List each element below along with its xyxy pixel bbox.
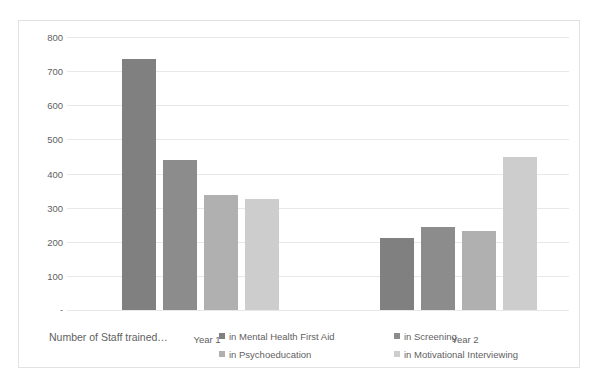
legend-swatch-icon — [394, 333, 400, 339]
bar[interactable] — [204, 195, 238, 310]
legend-item[interactable]: in Screening — [394, 327, 569, 345]
legend-swatch-icon — [219, 333, 225, 339]
x-axis-title: Number of Staff trained… — [49, 331, 168, 343]
legend-label: in Screening — [404, 331, 457, 342]
y-axis-tick-label: 500 — [17, 134, 63, 145]
legend-item[interactable]: in Motivational Interviewing — [394, 345, 569, 363]
y-axis-tick-label: 700 — [17, 66, 63, 77]
plot-area: 800700600500400300200100- Year 1Year 2 — [67, 37, 569, 310]
bar[interactable] — [380, 238, 414, 310]
bar[interactable] — [421, 227, 455, 310]
legend-label: in Mental Health First Aid — [229, 331, 335, 342]
legend-label: in Motivational Interviewing — [404, 349, 518, 360]
chart-legend: in Mental Health First Aidin Screeningin… — [219, 327, 579, 363]
bar-group — [122, 37, 279, 310]
y-axis-tick-label: 400 — [17, 168, 63, 179]
gridline — [67, 310, 569, 311]
y-axis-tick-label: 600 — [17, 100, 63, 111]
y-axis-tick-label: - — [17, 305, 63, 315]
y-axis-tick-label: 800 — [17, 32, 63, 43]
legend-item[interactable]: in Mental Health First Aid — [219, 327, 394, 345]
bar[interactable] — [245, 199, 279, 310]
y-axis-tick-label: 300 — [17, 202, 63, 213]
bar[interactable] — [462, 231, 496, 310]
bar-groups — [67, 37, 569, 310]
legend-swatch-icon — [394, 351, 400, 357]
bar-group — [380, 37, 537, 310]
bar[interactable] — [163, 160, 197, 310]
bar[interactable] — [122, 59, 156, 310]
bar[interactable] — [503, 157, 537, 310]
y-axis-tick-label: 200 — [17, 236, 63, 247]
legend-item[interactable]: in Psychoeducation — [219, 345, 394, 363]
legend-label: in Psychoeducation — [229, 349, 311, 360]
chart-title — [19, 7, 600, 19]
legend-swatch-icon — [219, 351, 225, 357]
y-axis-tick-label: 100 — [17, 270, 63, 281]
chart-container: 800700600500400300200100- Year 1Year 2 N… — [18, 20, 580, 368]
